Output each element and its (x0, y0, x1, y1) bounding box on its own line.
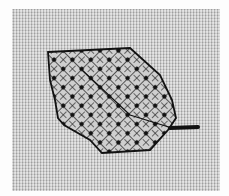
leaf-fill-pattern (40, 40, 190, 160)
embroidered-leaf (0, 0, 229, 196)
photo-frame (0, 0, 229, 196)
leaf-stem (170, 127, 198, 128)
